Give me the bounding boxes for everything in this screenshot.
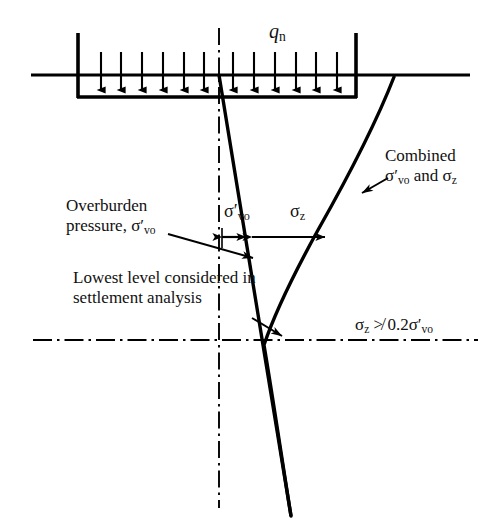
criterion-sigma-vo-symbol: σ [409,315,418,334]
label-dimension-sigma-vo: σ′vo [224,201,250,223]
criterion-factor-text: 0.2 [387,315,408,334]
label-stress-criterion: σz ≯ 0.2σ′vo [355,315,433,336]
overburden-sigma-subscript: vo [144,224,156,237]
dim-sigma-z-symbol: σ [290,201,300,221]
label-applied-pressure: qn [269,20,286,45]
combined-sigma-vo-subscript: vo [398,174,410,187]
qn-subscript: n [279,29,286,44]
dim-sigma-z-subscript: z [300,209,305,223]
combined-and-text: and [409,166,442,185]
label-overburden-pressure: Overburden pressure, σ′vo [66,196,216,237]
overburden-line1-text: Overburden [66,196,147,215]
criterion-sigma-vo-subscript: vo [422,323,434,336]
overburden-line2-text: pressure, [66,216,131,235]
combined-sigma-z-subscript: z [452,174,457,187]
label-dimension-sigma-z: σz [290,201,305,223]
criterion-operator-symbol: ≯ [374,315,384,334]
criterion-sigma-z-subscript: z [364,323,369,336]
criterion-sigma-z-symbol: σ [355,315,364,334]
diagram-canvas [0,0,496,530]
qn-symbol: q [269,20,279,42]
dim-sigma-vo-symbol: σ [224,201,234,221]
combined-sigma-vo-symbol: σ [385,166,394,185]
overburden-sigma-symbol: σ [131,216,140,235]
combined-line1-text: Combined [385,146,456,165]
label-combined-stress: Combined σ′vo and σz [385,146,457,187]
dim-sigma-vo-subscript: vo [238,209,250,223]
figure-root: qn Combined σ′vo and σz Overburden press… [0,0,496,530]
label-lowest-level: Lowest level considered in settlement an… [73,268,273,308]
combined-sigma-z-symbol: σ [442,166,451,185]
combined-stress-curve [264,77,394,516]
